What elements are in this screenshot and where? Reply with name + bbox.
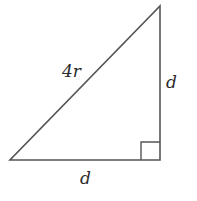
hypotenuse-label: 4r	[61, 61, 82, 81]
right-angle-marker	[141, 142, 160, 160]
vertical-leg-label: d	[166, 72, 177, 92]
horizontal-leg-label: d	[80, 168, 91, 188]
right-triangle-diagram: 4r d d	[0, 0, 197, 201]
triangle	[10, 6, 160, 160]
